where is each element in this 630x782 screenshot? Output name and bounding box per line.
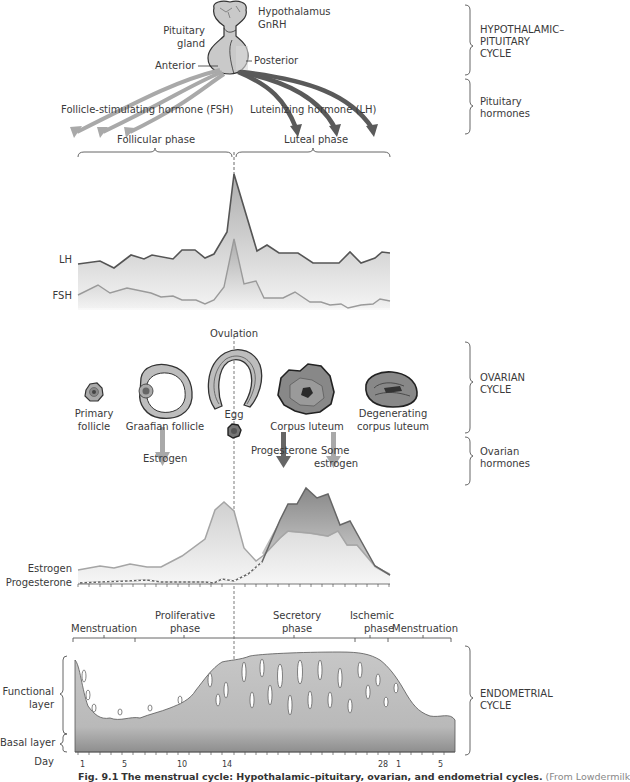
gnrh-label: GnRH <box>258 19 287 31</box>
lh-chart-label: LH <box>40 254 72 266</box>
some-estrogen-label-1: Some <box>321 445 349 457</box>
day-tick-10: 10 <box>177 759 187 771</box>
secretory-label-2: phase <box>262 623 332 635</box>
graafian-follicle-illustration <box>139 365 192 419</box>
estrogen-chart-label: Estrogen <box>0 563 72 575</box>
hp-cycle-label: HYPOTHALAMIC– PITUITARY CYCLE <box>480 24 564 60</box>
figure-source: (From Lowdermilk <box>546 771 630 782</box>
endometrium-illustration <box>75 652 455 752</box>
day-tick-1: 1 <box>80 759 85 771</box>
ovulation-label: Ovulation <box>204 328 264 340</box>
ovarian-hormones-label: Ovarian hormones <box>480 446 530 470</box>
egg-label: Egg <box>214 409 254 421</box>
primary-follicle-illustration <box>85 383 103 401</box>
anterior-label: Anterior <box>155 60 195 72</box>
pituitary-gland-illustration <box>208 1 248 74</box>
luteal-phase-label: Luteal phase <box>284 134 348 146</box>
graafian-follicle-label: Graafian follicle <box>120 421 210 433</box>
day-tick-28: 28 <box>378 759 388 771</box>
endometrial-cycle-label: ENDOMETRIAL CYCLE <box>480 688 553 712</box>
ovulating-follicle-illustration <box>208 350 261 409</box>
basal-layer-label: Basal layer <box>0 737 54 749</box>
egg-illustration <box>228 424 241 438</box>
fsh-label: Follicle-stimulating hormone (FSH) <box>61 104 234 116</box>
pituitary-gland-label-2: gland <box>150 38 205 50</box>
basal-layer-bracket <box>60 734 67 752</box>
follicular-phase-bracket <box>78 148 232 157</box>
right-side-brackets <box>465 5 473 755</box>
day-tick-5: 5 <box>122 759 127 771</box>
day-tick-5b: 5 <box>438 759 443 771</box>
estrogen-arrow-label: Estrogen <box>143 453 187 465</box>
ovarian-cycle-label: OVARIAN CYCLE <box>480 372 525 396</box>
degenerating-corpus-luteum-label-1: Degenerating <box>355 408 431 420</box>
pituitary-gland-label-1: Pituitary <box>150 25 205 37</box>
menstruation-label-2: Menstruation <box>392 623 458 635</box>
posterior-label: Posterior <box>254 55 298 67</box>
hypothalamus-label: Hypothalamus <box>258 6 331 18</box>
follicular-phase-label: Follicular phase <box>117 134 195 146</box>
pituitary-hormones-label: Pituitary hormones <box>480 96 530 120</box>
ovarian-chart-ticks <box>78 584 389 587</box>
functional-layer-label-1: Functional <box>0 686 54 698</box>
day-tick-14: 14 <box>222 759 232 771</box>
figure-title: The menstrual cycle: Hypothalamic–pituit… <box>121 771 542 782</box>
secretory-label-1: Secretory <box>262 610 332 622</box>
fsh-chart-label: FSH <box>40 290 72 302</box>
day-axis-label: Day <box>0 756 54 768</box>
luteal-phase-bracket <box>236 148 390 157</box>
gonadotropin-chart <box>78 174 390 310</box>
functional-layer-bracket <box>60 656 67 734</box>
ischemic-label-1: Ischemic <box>345 610 399 622</box>
primary-follicle-label-1: Primary <box>64 408 124 420</box>
figure-caption: Fig. 9.1 The menstrual cycle: Hypothalam… <box>78 771 630 782</box>
degenerating-corpus-luteum-illustration <box>366 372 417 407</box>
corpus-luteum-illustration <box>278 364 334 414</box>
lh-label: Luteinizing hormone (LH) <box>250 104 376 116</box>
degenerating-corpus-luteum-label-2: corpus luteum <box>355 421 431 433</box>
endometrial-phase-brackets <box>73 635 451 642</box>
fsh-arrows <box>77 70 224 132</box>
day-axis-ticks <box>78 752 444 755</box>
primary-follicle-label-2: follicle <box>64 421 124 433</box>
progesterone-arrow-label: Progesterone <box>251 445 317 457</box>
corpus-luteum-label: Corpus luteum <box>265 421 349 433</box>
functional-layer-label-2: layer <box>0 699 54 711</box>
progesterone-chart-label: Progesterone <box>0 577 72 589</box>
figure-number: Fig. 9.1 <box>78 771 118 782</box>
menstruation-label-1: Menstruation <box>64 623 144 635</box>
lh-arrows <box>238 72 372 128</box>
day-tick-1b: 1 <box>396 759 401 771</box>
proliferative-label-1: Proliferative <box>150 610 220 622</box>
some-estrogen-label-2: estrogen <box>314 458 358 470</box>
proliferative-label-2: phase <box>150 623 220 635</box>
